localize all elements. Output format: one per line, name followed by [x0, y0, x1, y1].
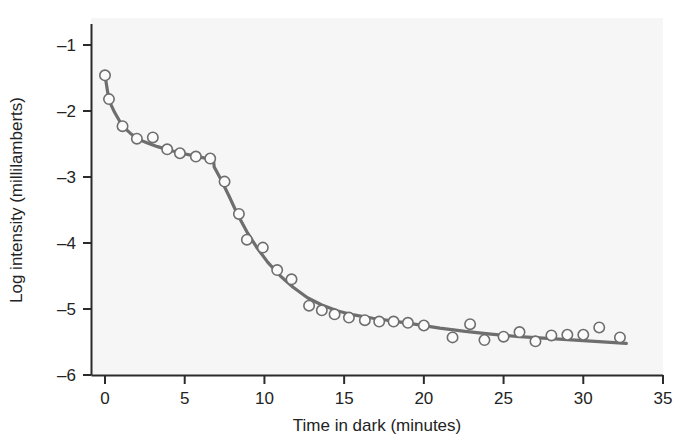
data-point-marker [479, 335, 489, 345]
y-axis-ticks: –1–2–3–4–5–6 [57, 36, 91, 385]
data-point-marker [234, 209, 244, 219]
data-point-marker [175, 148, 185, 158]
data-point-marker [148, 132, 158, 142]
data-point-marker [498, 332, 508, 342]
data-point-marker [304, 301, 314, 311]
data-point-marker [162, 144, 172, 154]
data-point-marker [419, 320, 429, 330]
x-tick-label: 30 [574, 389, 593, 408]
y-tick-label: –5 [57, 300, 76, 319]
y-tick-label: –3 [57, 168, 76, 187]
data-point-marker [578, 330, 588, 340]
data-point-marker [258, 242, 268, 252]
x-tick-label: 25 [494, 389, 513, 408]
data-point-marker [447, 332, 457, 342]
x-axis-title: Time in dark (minutes) [293, 416, 461, 435]
data-point-marker [514, 327, 524, 337]
x-tick-label: 5 [180, 389, 189, 408]
data-point-marker [360, 315, 370, 325]
y-tick-label: –1 [57, 36, 76, 55]
data-point-marker [219, 176, 229, 186]
data-point-marker [562, 330, 572, 340]
data-point-marker [329, 309, 339, 319]
dark-adaptation-chart-figure: –1–2–3–4–5–6 05101520253035 Time in dark… [0, 0, 694, 443]
x-axis-ticks: 05101520253035 [100, 375, 672, 408]
y-tick-label: –2 [57, 102, 76, 121]
data-point-marker [104, 94, 114, 104]
data-point-marker [344, 312, 354, 322]
data-point-marker [317, 305, 327, 315]
data-point-marker [465, 319, 475, 329]
data-point-marker [403, 318, 413, 328]
data-point-marker [242, 235, 252, 245]
data-point-marker [615, 332, 625, 342]
x-tick-label: 35 [654, 389, 673, 408]
chart-canvas: –1–2–3–4–5–6 05101520253035 Time in dark… [0, 0, 694, 443]
data-point-marker [191, 151, 201, 161]
x-tick-label: 15 [335, 389, 354, 408]
x-tick-label: 10 [255, 389, 274, 408]
data-point-marker [272, 265, 282, 275]
data-point-marker [100, 70, 110, 80]
data-point-marker [286, 274, 296, 284]
data-point-marker [205, 153, 215, 163]
x-tick-label: 20 [414, 389, 433, 408]
data-point-marker [388, 316, 398, 326]
data-point-marker [374, 316, 384, 326]
y-axis-title: Log intensity (millilamberts) [7, 97, 26, 303]
y-tick-label: –4 [57, 234, 76, 253]
data-point-marker [546, 330, 556, 340]
data-point-marker [132, 134, 142, 144]
y-tick-label: –6 [57, 366, 76, 385]
data-point-marker [117, 121, 127, 131]
data-point-marker [594, 322, 604, 332]
data-point-marker [530, 336, 540, 346]
x-tick-label: 0 [100, 389, 109, 408]
